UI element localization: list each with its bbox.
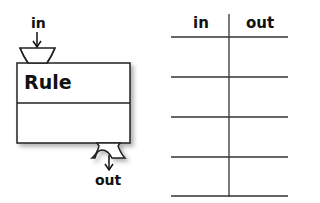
table-header-out: out [233,16,287,31]
input-connector [20,48,55,63]
table-header-in: in [180,16,222,31]
input-arrow-icon [33,32,41,47]
rule-title: Rule [24,73,72,92]
input-label: in [31,16,46,30]
io-table [171,14,288,197]
output-label: out [95,173,121,187]
